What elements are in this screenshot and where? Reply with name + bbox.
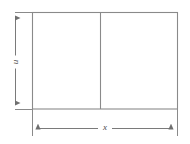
diagram-figure xyxy=(0,0,190,144)
width-dimension-label: x xyxy=(98,121,112,134)
height-dimension-label: u xyxy=(9,56,23,69)
rectangle-outline xyxy=(33,13,178,110)
diagram-canvas: u x xyxy=(0,0,190,144)
